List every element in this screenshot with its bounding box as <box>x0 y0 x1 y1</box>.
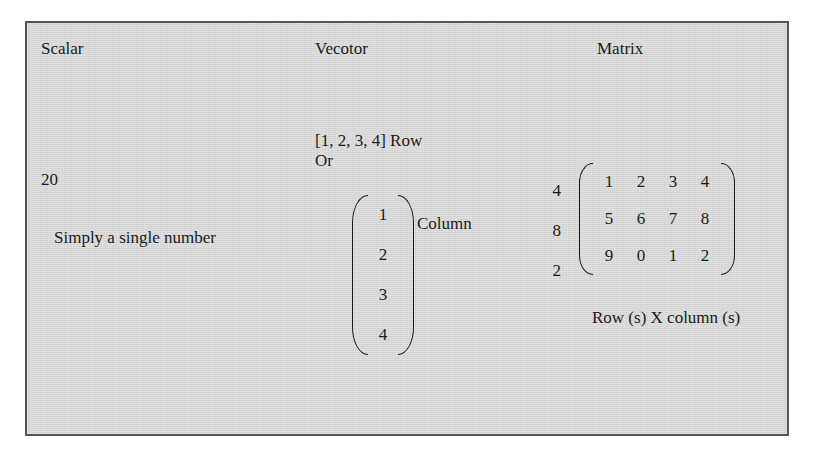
matrix-cell: 8 <box>689 200 721 237</box>
matrix-side-number: 2 <box>537 261 561 281</box>
matrix-grid: 1 2 3 4 5 6 7 8 9 0 1 2 <box>593 163 721 275</box>
scalar-description: Simply a single number <box>54 228 216 248</box>
left-parenthesis-icon <box>352 195 368 355</box>
column-vector-label: Column <box>417 214 472 234</box>
matrix-left-parenthesis-icon <box>579 163 593 275</box>
heading-matrix: Matrix <box>597 39 643 59</box>
matrix-row: 9 0 1 2 <box>593 238 721 275</box>
matrix-side-number: 8 <box>537 221 561 241</box>
matrix-cell: 7 <box>657 200 689 237</box>
matrix-row: 5 6 7 8 <box>593 200 721 237</box>
matrix-cell: 1 <box>657 238 689 275</box>
row-vector-notation: [1, 2, 3, 4] Row <box>315 131 422 151</box>
matrix-cell: 4 <box>689 163 721 200</box>
matrix-cell: 6 <box>625 200 657 237</box>
heading-scalar: Scalar <box>41 39 83 59</box>
matrix-right-parenthesis-icon <box>721 163 735 275</box>
column-vector-entry: 4 <box>379 325 388 345</box>
matrix-cell: 9 <box>593 238 625 275</box>
matrix-cell: 2 <box>689 238 721 275</box>
matrix-side-numbers: 4 8 2 <box>537 181 561 301</box>
column-vector-entry: 2 <box>379 245 388 265</box>
matrix-cell: 2 <box>625 163 657 200</box>
column-vector-entry: 1 <box>379 205 388 225</box>
heading-vector: Vecotor <box>315 39 368 59</box>
matrix-side-number: 4 <box>537 181 561 201</box>
content-panel: Scalar Vecotor Matrix 20 Simply a single… <box>25 21 789 436</box>
column-vector: 1 2 3 4 <box>352 195 414 355</box>
matrix-cell: 5 <box>593 200 625 237</box>
matrix-row: 1 2 3 4 <box>593 163 721 200</box>
scalar-value: 20 <box>41 170 58 190</box>
vector-or-label: Or <box>315 151 333 171</box>
slide-canvas: Scalar Vecotor Matrix 20 Simply a single… <box>0 0 817 465</box>
matrix-cell: 3 <box>657 163 689 200</box>
column-vector-entry: 3 <box>379 285 388 305</box>
right-parenthesis-icon <box>398 195 414 355</box>
matrix-caption: Row (s) X column (s) <box>592 308 740 328</box>
column-vector-entries: 1 2 3 4 <box>368 195 398 355</box>
matrix-display: 1 2 3 4 5 6 7 8 9 0 1 2 <box>579 163 735 275</box>
matrix-cell: 1 <box>593 163 625 200</box>
matrix-cell: 0 <box>625 238 657 275</box>
